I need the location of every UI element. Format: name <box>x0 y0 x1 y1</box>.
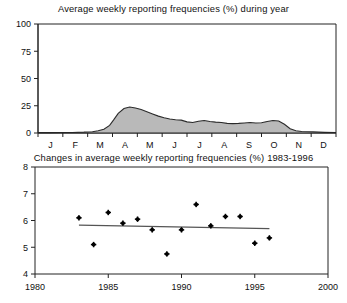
bottom-chart-data-point <box>223 214 228 219</box>
bottom-chart-data-point <box>164 251 169 256</box>
bottom-chart-data-point <box>76 215 81 220</box>
top-chart-xtick-label: S <box>246 140 252 150</box>
top-chart-xtick-label: A <box>221 140 227 150</box>
top-chart-xtick-label: J <box>172 140 177 150</box>
bottom-chart-data-point <box>267 235 272 240</box>
top-chart-xtick-label: N <box>296 140 303 150</box>
bottom-chart-xtick-label: 1985 <box>98 282 118 292</box>
bottom-chart-xtick-label: 1995 <box>245 282 265 292</box>
bottom-chart-ytick-label: 8 <box>23 162 28 172</box>
top-chart-xtick-label: F <box>73 140 79 150</box>
bottom-chart-data-point <box>193 202 198 207</box>
top-chart-xtick-label: A <box>122 140 128 150</box>
top-chart-xtick-label: J <box>197 140 202 150</box>
top-chart-ytick-label: 100 <box>16 19 31 29</box>
bottom-chart-xtick-label: 2000 <box>318 282 338 292</box>
figure-two-panel-chart: Average weekly reporting frequencies (%)… <box>0 0 347 303</box>
top-chart-xtick-label: M <box>146 140 154 150</box>
bottom-chart-data-point <box>237 214 242 219</box>
panel-yearly-scatter-chart: Changes in average weekly reporting freq… <box>0 150 347 303</box>
bottom-chart-data-point <box>106 210 111 215</box>
bottom-chart-data-point <box>252 241 257 246</box>
top-chart-xtick-label: J <box>48 140 53 150</box>
bottom-chart-trend-line <box>79 225 269 228</box>
bottom-chart-data-point <box>150 227 155 232</box>
bottom-chart-ytick-label: 7 <box>23 189 28 199</box>
top-chart-xtick-label: M <box>96 140 104 150</box>
bottom-chart-ytick-label: 5 <box>23 243 28 253</box>
top-chart-ytick-label: 50 <box>21 74 31 84</box>
bottom-chart-ytick-label: 4 <box>23 269 28 279</box>
panel-seasonal-area-chart: Average weekly reporting frequencies (%)… <box>0 0 347 152</box>
bottom-chart-ytick-label: 6 <box>23 216 28 226</box>
bottom-chart-xtick-label: 1980 <box>25 282 45 292</box>
top-chart-xtick-label: O <box>270 140 277 150</box>
bottom-chart-svg: 4567819801985199019952000 <box>0 150 347 303</box>
top-chart-ytick-label: 0 <box>26 128 31 138</box>
top-chart-ytick-label: 25 <box>21 101 31 111</box>
top-chart-ytick-label: 75 <box>21 47 31 57</box>
top-chart-xtick-label: D <box>320 140 327 150</box>
bottom-chart-data-point <box>179 227 184 232</box>
bottom-chart-xtick-label: 1990 <box>171 282 191 292</box>
bottom-chart-data-point <box>120 220 125 225</box>
bottom-chart-data-point <box>91 242 96 247</box>
top-chart-svg: 0255075100JFMAMJJASOND <box>0 0 347 152</box>
bottom-chart-data-point <box>135 216 140 221</box>
